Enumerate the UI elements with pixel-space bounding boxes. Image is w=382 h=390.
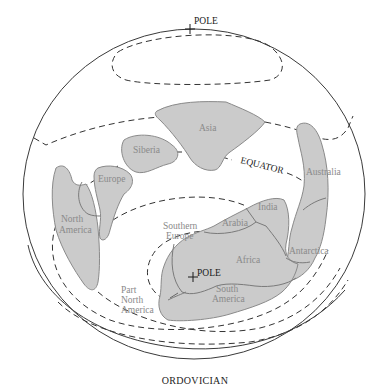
label-india: India [258, 202, 278, 212]
label-australia: Australia [306, 167, 342, 177]
equator-label: EQUATOR [240, 155, 286, 176]
ordovician-map: POLE POLE EQUATOR Asia Siberia Europe No… [0, 0, 382, 390]
label-south-america-1: South [216, 284, 238, 294]
label-part-north-america-1: Part [121, 285, 137, 295]
label-southern-europe-1: Southern [163, 221, 198, 231]
south-pole-label: POLE [197, 268, 221, 278]
landmass-australia [284, 123, 328, 280]
label-part-north-america-2: North [121, 295, 143, 305]
label-north-america-2: America [59, 225, 92, 235]
label-south-america-2: America [212, 294, 245, 304]
north-pole-label: POLE [194, 16, 218, 26]
label-arabia: Arabia [222, 218, 249, 228]
label-europe: Europe [98, 174, 125, 184]
label-asia: Asia [199, 123, 217, 133]
southern-tropic-line [113, 197, 246, 220]
label-antarctica: Antarctica [289, 246, 329, 256]
north-polar-circle [112, 35, 282, 85]
label-southern-europe-2: Europe [166, 231, 193, 241]
label-siberia: Siberia [133, 145, 161, 155]
label-part-north-america-3: America [121, 305, 154, 315]
label-africa: Africa [236, 255, 261, 265]
map-title: ORDOVICIAN [162, 375, 228, 386]
label-north-america-1: North [61, 214, 83, 224]
